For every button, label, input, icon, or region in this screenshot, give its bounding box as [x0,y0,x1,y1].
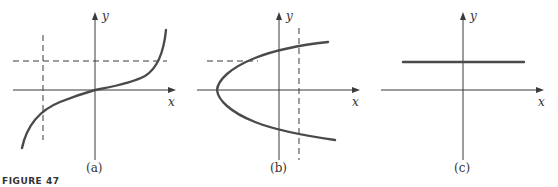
y-axis-arrow-icon [276,12,282,20]
panel-b: y x (b) [197,9,360,175]
x-label: x [352,95,359,109]
x-label: x [538,95,545,109]
parabola-curve [217,42,335,140]
y-label: y [285,9,293,23]
x-axis-arrow-icon [352,87,360,93]
panel-a: y x (a) [13,9,176,175]
caption-c: (c) [454,161,470,175]
y-label: y [101,9,109,23]
x-axis-arrow-icon [536,87,544,93]
y-label: y [469,9,477,23]
caption-a: (a) [86,161,103,175]
y-axis-arrow-icon [92,12,98,20]
caption-b: (b) [270,161,287,175]
figure-47: y x (a) y x (b) y x (c) FIGURE 47 [0,0,558,187]
x-label: x [168,95,175,109]
cubic-curve [22,30,166,148]
figure-label: FIGURE 47 [2,176,59,186]
panel-c: y x (c) [381,9,545,175]
x-axis-arrow-icon [168,87,176,93]
y-axis-arrow-icon [460,12,466,20]
